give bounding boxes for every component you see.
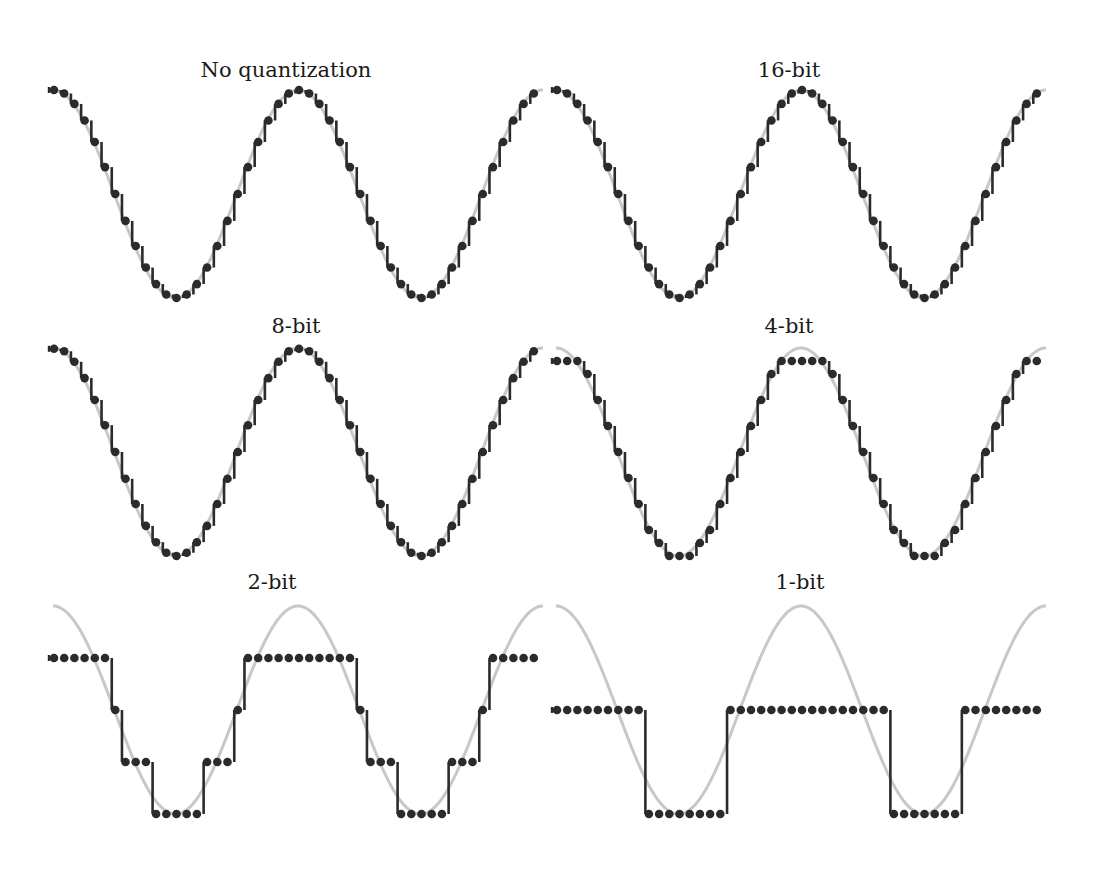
sample-point [111, 448, 120, 457]
sample-point [696, 539, 705, 548]
sample-point [407, 549, 416, 558]
sample-point [757, 138, 766, 147]
reference-sine [53, 90, 543, 298]
sample-point [665, 552, 674, 561]
sample-point [553, 86, 562, 95]
sample-point [777, 357, 786, 366]
sample-point [624, 706, 633, 715]
sample-point [213, 758, 222, 767]
sample-point [346, 421, 355, 430]
sample-point [407, 290, 416, 299]
sample-point [223, 758, 232, 767]
sample-point [499, 396, 508, 405]
panel-none [49, 86, 543, 303]
sample-point [767, 706, 776, 715]
sample-point [696, 810, 705, 819]
sample-point [910, 810, 919, 819]
sample-point [828, 370, 837, 379]
sample-point [479, 448, 488, 457]
sample-point [869, 217, 878, 226]
sample-point [706, 526, 715, 535]
panel-title-1-bit: 1-bit [775, 570, 824, 594]
sample-point [941, 810, 950, 819]
sample-point [193, 280, 202, 289]
panel-title-no-quantization: No quantization [201, 58, 372, 82]
sample-point [356, 448, 365, 457]
sample-point [696, 280, 705, 289]
sample-point [614, 190, 623, 199]
sample-point [366, 758, 375, 767]
sample-point [70, 654, 79, 663]
sample-point [509, 374, 518, 383]
sample-point [726, 706, 735, 715]
sample-point [427, 290, 436, 299]
sample-point [295, 345, 304, 354]
sample-point [438, 810, 447, 819]
sample-point [982, 706, 991, 715]
sample-point [50, 345, 59, 354]
sample-point [971, 706, 980, 715]
sample-point [982, 448, 991, 457]
sample-point [519, 358, 528, 367]
panel-title-16-bit: 16-bit [758, 58, 820, 82]
sample-point [573, 706, 582, 715]
sample-point [489, 421, 498, 430]
sample-point [594, 138, 603, 147]
sample-point [645, 263, 654, 272]
sample-point [325, 654, 334, 663]
sample-point [111, 190, 120, 199]
sample-point [519, 100, 528, 109]
sample-point [80, 374, 89, 383]
panel-b16 [552, 86, 1046, 303]
sample-point [223, 475, 232, 484]
sample-point [920, 552, 929, 561]
sample-point [839, 396, 848, 405]
sample-point [737, 190, 746, 199]
sample-point [468, 475, 477, 484]
sample-point [808, 89, 817, 98]
sample-point [417, 810, 426, 819]
sample-point [930, 290, 939, 299]
sample-point [900, 280, 909, 289]
sample-point [849, 706, 858, 715]
reference-sine [556, 348, 1046, 556]
sample-point [80, 654, 89, 663]
sample-point [121, 475, 130, 484]
sample-point [665, 810, 674, 819]
sample-point [982, 190, 991, 199]
sample-point [70, 100, 79, 109]
sample-point [152, 538, 161, 547]
sample-point [951, 263, 960, 272]
sample-point [397, 538, 406, 547]
sample-point [162, 549, 171, 558]
sample-point [798, 86, 807, 95]
sample-point [685, 552, 694, 561]
sample-point [489, 654, 498, 663]
sample-point [438, 280, 447, 289]
sample-point [828, 706, 837, 715]
sample-point [879, 242, 888, 251]
sample-point [920, 810, 929, 819]
sample-point [489, 163, 498, 172]
sample-point [737, 448, 746, 457]
panel-b1 [552, 606, 1046, 818]
sample-point [325, 116, 334, 125]
sample-point [70, 358, 79, 367]
sample-point [274, 654, 283, 663]
sample-point [285, 89, 294, 98]
sample-point [223, 217, 232, 226]
sample-point [356, 706, 365, 715]
sample-point [142, 758, 151, 767]
sample-point [101, 654, 110, 663]
sample-point [264, 374, 273, 383]
sample-point [788, 706, 797, 715]
sample-point [172, 810, 181, 819]
sample-point [818, 357, 827, 366]
sample-point [91, 138, 100, 147]
sample-point [325, 374, 334, 383]
sample-point [397, 280, 406, 289]
panel-title-8-bit: 8-bit [271, 314, 320, 338]
sample-point [859, 448, 868, 457]
sample-point [264, 654, 273, 663]
sample-point [417, 552, 426, 561]
